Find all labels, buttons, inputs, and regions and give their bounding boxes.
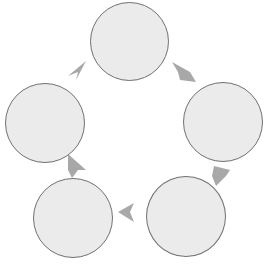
arrow-bottom-right-to-bottom-left [118,203,134,222]
cycle-node-bottom-left [33,178,113,258]
cycle-node-right [183,82,263,162]
arrow-right-to-bottom-right [212,166,230,186]
cycle-node-bottom-right [146,176,226,257]
cycle-node-top [90,2,169,81]
arrow-top-to-right [172,62,196,82]
arrow-left-to-top [68,61,86,80]
arrow-bottom-left-to-left [68,154,86,178]
cycle-node-left [5,83,85,163]
